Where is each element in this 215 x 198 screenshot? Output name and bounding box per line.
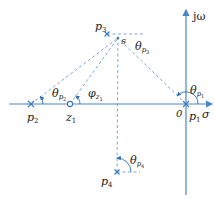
s-plane-diagram: jω σ 0 p1 p2 p3 p4 z1 s θp3 θp1 θp2 φz1 … <box>0 0 215 198</box>
zero-z1 <box>67 101 72 106</box>
label-p4: p4 <box>101 175 113 189</box>
vector-p2-s <box>31 38 118 104</box>
label-z1: z1 <box>65 111 76 125</box>
vectors <box>31 34 186 172</box>
label-theta-p3: θp3 <box>135 40 149 55</box>
label-phi-z1: φz1 <box>88 87 103 102</box>
real-axis-label: σ <box>202 108 210 121</box>
label-p2: p2 <box>27 111 39 125</box>
label-s: s <box>121 35 126 46</box>
label-theta-p4: θp4 <box>130 154 144 169</box>
arc-theta-p2 <box>41 97 44 104</box>
vector-p1-s <box>118 38 186 104</box>
imag-axis-label: jω <box>191 10 205 23</box>
origin-label: 0 <box>176 108 183 119</box>
label-theta-p1: θp1 <box>190 84 204 99</box>
label-theta-p2: θp2 <box>52 87 66 102</box>
vector-p4-s <box>117 38 118 172</box>
arc-phi-z1 <box>76 96 80 104</box>
test-point-s <box>117 37 120 40</box>
label-p3: p3 <box>95 20 107 34</box>
label-p1: p1 <box>189 110 201 124</box>
